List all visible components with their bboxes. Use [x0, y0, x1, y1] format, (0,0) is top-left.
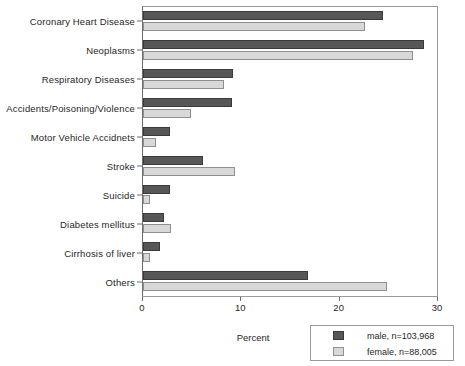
bar-chart: Coronary Heart DiseaseNeoplasmsRespirato…: [0, 0, 465, 366]
x-axis-ticks: 0102030: [0, 297, 465, 317]
category-row: Neoplasms: [0, 36, 465, 65]
category-row: Coronary Heart Disease: [0, 7, 465, 36]
bar-male: [143, 185, 170, 194]
bar-male: [143, 271, 308, 280]
bar-group: [143, 267, 443, 296]
bar-group: [143, 7, 443, 36]
category-row: Stroke: [0, 152, 465, 181]
category-label: Diabetes mellitus: [60, 218, 135, 229]
bar-female: [143, 253, 150, 262]
bar-group: [143, 238, 443, 267]
bar-group: [143, 123, 443, 152]
y-axis-tick: [137, 252, 142, 253]
x-tick-label: 20: [333, 302, 344, 313]
category-label: Respiratory Diseases: [42, 74, 135, 85]
x-tick-line: [437, 297, 438, 301]
bar-female: [143, 51, 413, 60]
category-label: Accidents/Poisoning/Violence: [6, 103, 135, 114]
category-label: Neoplasms: [86, 45, 135, 56]
bar-male: [143, 40, 424, 49]
bar-female: [143, 80, 224, 89]
legend-label-female: female, n=88,005: [367, 347, 437, 357]
bar-male: [143, 213, 164, 222]
y-axis-tick: [137, 79, 142, 80]
bar-male: [143, 69, 233, 78]
bar-female: [143, 282, 387, 291]
category-row: Others: [0, 267, 465, 296]
bar-female: [143, 224, 171, 233]
bar-group: [143, 94, 443, 123]
bar-male: [143, 242, 160, 251]
legend-swatch-female-icon: [333, 347, 344, 356]
bar-group: [143, 36, 443, 65]
legend-item-male: male, n=103,968: [311, 327, 453, 344]
category-row: Motor Vehicle Accidnets: [0, 123, 465, 152]
category-row: Respiratory Diseases: [0, 65, 465, 94]
bar-male: [143, 156, 203, 165]
y-axis-tick: [137, 281, 142, 282]
category-row: Cirrhosis of liver: [0, 238, 465, 267]
category-label: Stroke: [107, 160, 135, 171]
x-tick-label: 30: [432, 302, 443, 313]
category-label: Suicide: [103, 189, 135, 200]
y-axis-tick: [137, 108, 142, 109]
bar-male: [143, 11, 383, 20]
category-label: Cirrhosis of liver: [64, 247, 135, 258]
bar-male: [143, 127, 170, 136]
category-row: Accidents/Poisoning/Violence: [0, 94, 465, 123]
bar-female: [143, 167, 235, 176]
bar-group: [143, 65, 443, 94]
category-rows: Coronary Heart DiseaseNeoplasmsRespirato…: [0, 7, 465, 296]
chart-legend: male, n=103,968 female, n=88,005: [310, 325, 454, 361]
y-axis-tick: [137, 137, 142, 138]
category-row: Suicide: [0, 180, 465, 209]
x-tick-line: [339, 297, 340, 301]
bar-female: [143, 109, 191, 118]
y-axis-tick: [137, 21, 142, 22]
x-tick-label: 10: [235, 302, 246, 313]
legend-item-female: female, n=88,005: [311, 343, 453, 360]
y-axis-tick: [137, 223, 142, 224]
bar-group: [143, 180, 443, 209]
x-tick-label: 0: [139, 302, 144, 313]
x-tick-line: [142, 297, 143, 301]
bar-male: [143, 98, 232, 107]
category-label: Motor Vehicle Accidnets: [31, 132, 135, 143]
bar-group: [143, 152, 443, 181]
category-row: Diabetes mellitus: [0, 209, 465, 238]
bar-group: [143, 209, 443, 238]
bar-female: [143, 22, 365, 31]
legend-swatch-male-icon: [333, 331, 344, 340]
category-label: Coronary Heart Disease: [30, 16, 135, 27]
bar-female: [143, 195, 150, 204]
legend-label-male: male, n=103,968: [367, 331, 434, 341]
category-label: Others: [106, 276, 135, 287]
x-axis-title: Percent: [237, 332, 270, 343]
y-axis-tick: [137, 194, 142, 195]
x-tick-line: [240, 297, 241, 301]
bar-female: [143, 138, 156, 147]
y-axis-tick: [137, 165, 142, 166]
y-axis-tick: [137, 50, 142, 51]
